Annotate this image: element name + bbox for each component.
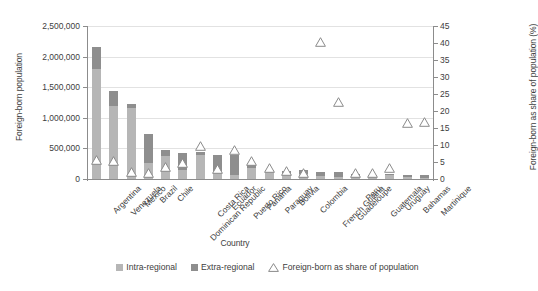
share-marker-triangle xyxy=(126,167,137,177)
y-axis-ticklabel-right: 45 xyxy=(440,22,480,31)
y-axis-ticklabel-left: 2,000,000 xyxy=(10,53,80,62)
y-axis-tick-right xyxy=(434,179,438,180)
x-axis-ticklabel: Colombia xyxy=(318,184,349,215)
y-axis-ticklabel-right: 0 xyxy=(440,175,480,184)
share-marker-triangle xyxy=(350,168,361,178)
y-axis-ticklabel-left: 2,500,000 xyxy=(10,22,80,31)
y-axis-ticklabel-right: 25 xyxy=(440,90,480,99)
bar-segment-intra-regional xyxy=(196,155,205,179)
y-axis-ticklabel-left: 1,000,000 xyxy=(10,114,80,123)
gridline xyxy=(88,57,433,58)
bar-segment-extra-regional xyxy=(109,91,118,106)
share-marker-triangle xyxy=(108,156,119,166)
y-axis-tick-right xyxy=(434,145,438,146)
share-marker-triangle xyxy=(419,117,430,127)
y-axis-tick-right xyxy=(434,43,438,44)
y-axis-ticklabel-left: 1,500,000 xyxy=(10,83,80,92)
legend-label-extra: Extra-regional xyxy=(201,262,255,272)
share-marker-triangle xyxy=(367,168,378,178)
legend-triangle-icon xyxy=(268,263,279,272)
gridline xyxy=(88,26,433,27)
bar-segment-extra-regional xyxy=(92,47,101,70)
bar-group xyxy=(316,172,325,179)
legend-swatch-icon-extra xyxy=(191,264,198,271)
bar-group xyxy=(230,155,239,179)
x-axis-category-labels: ArgentinaVenezuelaMexicoBrazilChileDomin… xyxy=(88,182,433,238)
y-axis-ticklabel-right: 40 xyxy=(440,39,480,48)
bar-segment-intra-regional xyxy=(109,106,118,179)
gridline xyxy=(88,87,433,88)
legend-item-share: Foreign-born as share of population xyxy=(268,262,418,272)
y-axis-tick-left xyxy=(83,118,87,119)
bar-group xyxy=(247,165,256,179)
y-axis-ticklabel-right: 20 xyxy=(440,107,480,116)
y-axis-tick-left xyxy=(83,148,87,149)
y-axis-tick-left xyxy=(83,87,87,88)
y-axis-ticklabel-left: 500,000 xyxy=(10,144,80,153)
share-marker-triangle xyxy=(212,164,223,174)
share-marker-triangle xyxy=(384,163,395,173)
bar-group xyxy=(109,91,118,179)
share-marker-triangle xyxy=(264,163,275,173)
share-marker-triangle xyxy=(333,97,344,107)
bar-segment-intra-regional xyxy=(178,170,187,179)
y-axis-title-right: Foreign-born as share of population (%) xyxy=(528,17,538,177)
bar-group xyxy=(196,152,205,179)
bar-group xyxy=(334,172,343,179)
share-marker-triangle xyxy=(246,156,257,166)
bar-segment-extra-regional xyxy=(230,155,239,176)
share-marker-triangle xyxy=(281,166,292,176)
legend-item-extra-regional: Extra-regional xyxy=(191,262,255,272)
y-axis-ticklabel-right: 35 xyxy=(440,56,480,65)
legend-label-intra: Intra-regional xyxy=(126,262,177,272)
y-axis-left-spine xyxy=(87,26,88,181)
y-axis-tick-left xyxy=(83,57,87,58)
share-marker-triangle xyxy=(229,145,240,155)
x-axis-title: Country xyxy=(0,238,470,248)
share-marker-triangle xyxy=(298,168,309,178)
share-marker-triangle xyxy=(195,141,206,151)
y-axis-tick-left xyxy=(83,179,87,180)
share-marker-triangle xyxy=(177,158,188,168)
y-axis-ticklabel-right: 5 xyxy=(440,158,480,167)
share-marker-triangle xyxy=(315,37,326,47)
y-axis-ticklabel-right: 30 xyxy=(440,73,480,82)
legend-label-share: Foreign-born as share of population xyxy=(282,262,418,272)
share-marker-triangle xyxy=(143,168,154,178)
y-axis-ticklabel-right: 15 xyxy=(440,124,480,133)
legend-swatch-icon-intra xyxy=(116,264,123,271)
gridline xyxy=(88,118,433,119)
y-axis-tick-right xyxy=(434,162,438,163)
y-axis-tick-right xyxy=(434,26,438,27)
share-marker-triangle xyxy=(402,118,413,128)
y-axis-tick-right xyxy=(434,77,438,78)
gridline xyxy=(88,148,433,149)
chart-legend: Intra-regional Extra-regional Foreign-bo… xyxy=(0,262,535,272)
y-axis-title-left: Foreign-born population xyxy=(14,32,24,162)
y-axis-ticklabel-left: 0 xyxy=(10,175,80,184)
x-axis-ticklabel: Bolivia xyxy=(298,184,321,207)
y-axis-tick-right xyxy=(434,128,438,129)
y-axis-tick-left xyxy=(83,26,87,27)
y-axis-tick-right xyxy=(434,94,438,95)
bar-segment-intra-regional xyxy=(247,168,256,179)
x-axis-ticklabel: Chile xyxy=(175,184,194,203)
bar-segment-extra-regional xyxy=(144,134,153,163)
y-axis-ticklabel-right: 10 xyxy=(440,141,480,150)
share-marker-triangle xyxy=(91,155,102,165)
plot-area xyxy=(88,26,433,180)
legend-item-intra-regional: Intra-regional xyxy=(116,262,177,272)
share-marker-triangle xyxy=(160,162,171,172)
y-axis-tick-right xyxy=(434,111,438,112)
x-axis-baseline xyxy=(88,179,433,180)
y-axis-tick-right xyxy=(434,60,438,61)
y-axis-right-spine xyxy=(433,26,434,181)
